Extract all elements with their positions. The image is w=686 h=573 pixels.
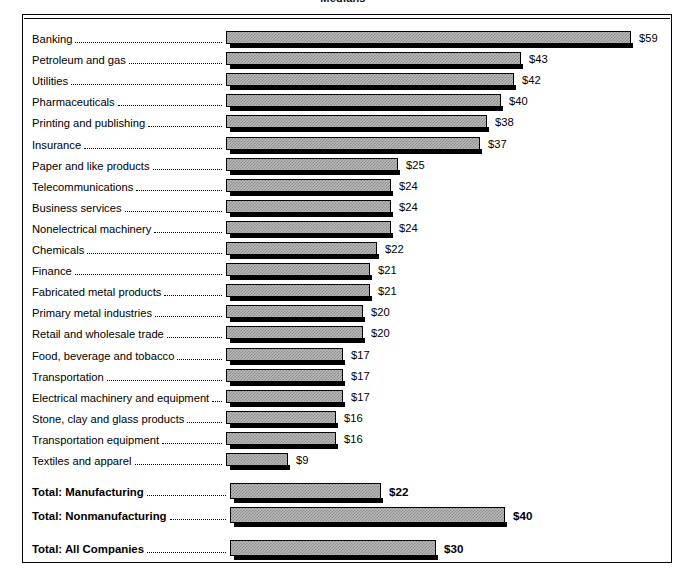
leader-dots	[135, 450, 222, 472]
bar-row: Electrical machinery and equipment$17	[0, 387, 686, 409]
bar-row: Chemicals$22	[0, 239, 686, 261]
bar-fill	[226, 369, 343, 382]
category-label: Insurance	[32, 134, 81, 156]
category-label: Utilities	[32, 70, 68, 92]
bar-fill	[226, 200, 391, 213]
leader-dots	[170, 505, 226, 527]
leader-dots	[153, 155, 222, 177]
bar-fill	[226, 305, 363, 318]
leader-dots	[187, 408, 222, 430]
bar-value-label: $30	[444, 538, 463, 560]
bar-fill	[226, 221, 391, 234]
leader-dots	[177, 345, 222, 367]
bar-fill	[226, 242, 377, 255]
bar	[226, 369, 343, 382]
category-label: Business services	[32, 197, 122, 219]
bar-row: Transportation equipment$16	[0, 429, 686, 451]
category-label: Fabricated metal products	[32, 281, 161, 303]
bar-value-label: $43	[529, 49, 548, 71]
bar-value-label: $24	[399, 218, 418, 240]
total-row: Total: Manufacturing$22	[0, 481, 686, 503]
leader-dots	[154, 218, 222, 240]
bar	[226, 263, 370, 276]
bar-row: Food, beverage and tobacco$17	[0, 345, 686, 367]
bar-row: Petroleum and gas$43	[0, 49, 686, 71]
bar	[230, 507, 505, 523]
category-label: Finance	[32, 260, 72, 282]
bar-value-label: $24	[399, 197, 418, 219]
total-row: Total: Nonmanufacturing$40	[0, 505, 686, 527]
bar	[226, 137, 480, 150]
leader-dots	[148, 112, 222, 134]
total-label: Total: All Companies	[32, 538, 144, 560]
category-label: Retail and wholesale trade	[32, 323, 164, 345]
category-label: Petroleum and gas	[32, 49, 126, 71]
leader-dots	[87, 239, 222, 261]
bar-row: Business services$24	[0, 197, 686, 219]
leader-dots	[71, 70, 222, 92]
bar	[226, 115, 487, 128]
leader-dots	[118, 91, 222, 113]
category-label: Stone, clay and glass products	[32, 408, 184, 430]
bar-fill	[226, 115, 487, 128]
bar-row: Printing and publishing$38	[0, 112, 686, 134]
bar-row: Finance$21	[0, 260, 686, 282]
bar-fill	[226, 73, 514, 86]
leader-dots	[147, 481, 226, 503]
bar-value-label: $25	[406, 155, 425, 177]
bar-value-label: $9	[296, 450, 308, 472]
bar-fill	[230, 540, 436, 556]
bar	[226, 348, 343, 361]
bar-value-label: $38	[495, 112, 514, 134]
bar-fill	[226, 390, 343, 403]
category-label: Textiles and apparel	[32, 450, 132, 472]
bar-row: Stone, clay and glass products$16	[0, 408, 686, 430]
category-label: Paper and like products	[32, 155, 150, 177]
bar-row: Textiles and apparel$9	[0, 450, 686, 472]
bar-value-label: $22	[385, 239, 404, 261]
bar-value-label: $17	[351, 387, 370, 409]
bar-row: Nonelectrical machinery$24	[0, 218, 686, 240]
bar-row: Telecommunications$24	[0, 176, 686, 198]
bar	[226, 200, 391, 213]
bar-rows-container: Banking$59Petroleum and gas$43Utilities$…	[0, 0, 686, 573]
bar-fill	[226, 411, 336, 424]
leader-dots	[125, 197, 222, 219]
total-label: Total: Manufacturing	[32, 481, 144, 503]
bar	[226, 432, 336, 445]
bar-fill	[230, 507, 505, 523]
bar	[230, 540, 436, 556]
bar-row: Fabricated metal products$21	[0, 281, 686, 303]
bar	[226, 221, 391, 234]
bar	[226, 305, 363, 318]
category-label: Transportation	[32, 366, 104, 388]
leader-dots	[136, 176, 222, 198]
total-label: Total: Nonmanufacturing	[32, 505, 167, 527]
bar	[226, 284, 370, 297]
category-label: Transportation equipment	[32, 429, 159, 451]
bar	[226, 242, 377, 255]
leader-dots	[167, 323, 222, 345]
bar-value-label: $16	[344, 429, 363, 451]
bar-fill	[230, 483, 381, 499]
leader-dots	[162, 429, 222, 451]
leader-dots	[75, 260, 222, 282]
bar-value-label: $17	[351, 345, 370, 367]
bar-fill	[226, 453, 288, 466]
bar-row: Pharmaceuticals$40	[0, 91, 686, 113]
leader-dots	[84, 134, 222, 156]
bar-row: Insurance$37	[0, 134, 686, 156]
bar-fill	[226, 284, 370, 297]
bar-fill	[226, 348, 343, 361]
bar-row: Transportation$17	[0, 366, 686, 388]
bar-value-label: $24	[399, 176, 418, 198]
bar-value-label: $21	[378, 260, 397, 282]
category-label: Electrical machinery and equipment	[32, 387, 209, 409]
bar-row: Banking$59	[0, 28, 686, 50]
bar	[226, 390, 343, 403]
bar	[226, 158, 398, 171]
bar-fill	[226, 137, 480, 150]
category-label: Banking	[32, 28, 72, 50]
bar-fill	[226, 158, 398, 171]
bar-value-label: $40	[509, 91, 528, 113]
